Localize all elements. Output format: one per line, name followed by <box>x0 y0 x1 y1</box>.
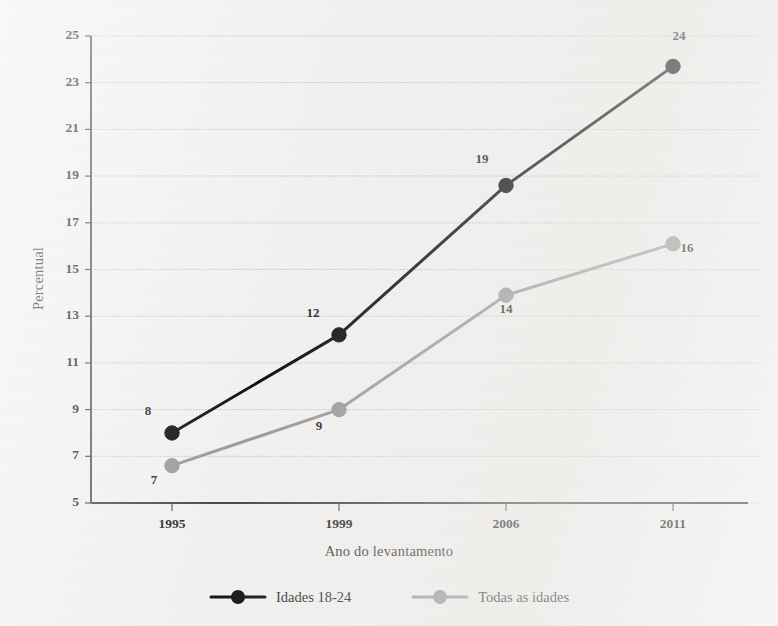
gridlines-group <box>91 36 760 503</box>
data-point-label: 19 <box>462 151 502 167</box>
line-chart-figure: 5791113151719212325 1995199920062011 812… <box>0 0 778 626</box>
series-line <box>172 66 673 433</box>
legend-marker-icon <box>411 588 469 606</box>
legend-entry[interactable]: Todas as idades <box>411 588 569 606</box>
y-axis-tick-label: 23 <box>39 74 79 90</box>
series-marker <box>165 426 179 440</box>
series-marker <box>332 328 346 342</box>
x-axis-tick-label: 2011 <box>633 516 713 532</box>
series-marker <box>666 59 680 73</box>
data-point-label: 16 <box>667 240 707 256</box>
y-axis-tick-label: 21 <box>39 120 79 136</box>
legend-label: Idades 18-24 <box>276 589 351 606</box>
legend-marker-icon <box>209 588 267 606</box>
y-axis-title: Percentual <box>30 219 47 339</box>
x-axis-tick-label: 1995 <box>132 516 212 532</box>
y-axis-tick-label: 7 <box>39 447 79 463</box>
series-line <box>172 244 673 466</box>
x-axis-title: Ano do levantamento <box>0 543 778 560</box>
series-marker <box>332 402 346 416</box>
x-tick-marks-group <box>172 503 673 511</box>
data-point-label: 8 <box>128 403 168 419</box>
plot-canvas <box>0 0 778 626</box>
data-point-label: 7 <box>134 472 174 488</box>
legend-entry[interactable]: Idades 18-24 <box>209 588 351 606</box>
y-axis-tick-label: 25 <box>39 27 79 43</box>
x-axis-tick-label: 1999 <box>299 516 379 532</box>
x-axis-tick-label: 2006 <box>466 516 546 532</box>
y-axis-tick-label: 5 <box>39 494 79 510</box>
series-lines-group <box>172 66 673 465</box>
data-point-label: 12 <box>293 305 333 321</box>
y-axis-tick-label: 11 <box>39 354 79 370</box>
y-axis-tick-label: 9 <box>39 401 79 417</box>
data-point-label: 24 <box>659 28 699 44</box>
y-axis-tick-label: 19 <box>39 167 79 183</box>
series-marker <box>499 178 513 192</box>
data-point-label: 14 <box>486 301 526 317</box>
legend-label: Todas as idades <box>478 589 569 606</box>
data-point-label: 9 <box>299 418 339 434</box>
chart-legend: Idades 18-24Todas as idades <box>0 588 778 606</box>
